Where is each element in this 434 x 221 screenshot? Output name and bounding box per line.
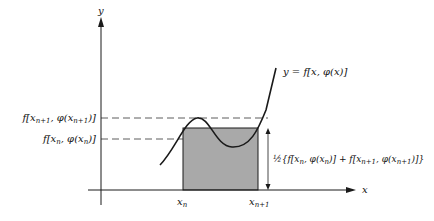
y-axis-arrow-icon (98, 17, 104, 27)
arrow-down-icon (266, 184, 271, 190)
upper-value-label: f[xn+1, φ(xn+1)] (21, 112, 96, 125)
lower-value-label: f[xn, φ(xn)] (42, 133, 96, 146)
arrow-up-icon (266, 128, 271, 134)
y-axis-label: y (97, 5, 104, 16)
shaded-rectangle (183, 128, 258, 190)
x-n-plus-1-label: xn+1 (249, 196, 269, 209)
curve-label: y = f[x, φ(x)] (282, 66, 347, 77)
x-axis-arrow-icon (346, 187, 356, 193)
x-axis-label: x (362, 184, 368, 195)
trapezoid-diagram: y x y = f[x, φ(x)] f[xn+1, φ(xn+1)] f[xn… (0, 0, 434, 221)
x-n-label: xn (177, 196, 188, 209)
average-height-label: ½{f[xn, φ(xn)] + f[xn+1, φ(xn+1)]} (273, 154, 424, 166)
